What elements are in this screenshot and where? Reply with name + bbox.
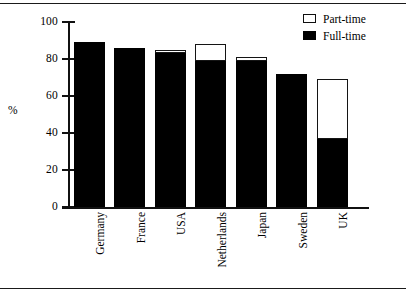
full-time-swatch-icon xyxy=(303,31,316,40)
legend-label-part-time: Part-time xyxy=(323,13,366,25)
y-tick-label-wrap: 20 xyxy=(18,164,58,176)
y-axis-title: % xyxy=(8,104,18,116)
y-tick-label: 0 xyxy=(18,201,58,213)
x-label-usa: USA xyxy=(175,212,187,235)
chart-legend: Part-time Full-time xyxy=(303,11,401,45)
bar-uk xyxy=(317,79,348,207)
bar-france xyxy=(114,48,145,207)
y-tick-100 xyxy=(62,21,75,23)
y-tick-label-wrap: 60 xyxy=(18,90,58,102)
x-label-france: France xyxy=(135,212,147,243)
x-label-uk: UK xyxy=(337,212,349,229)
y-tick-label: 80 xyxy=(18,53,58,65)
x-label-sweden: Sweden xyxy=(297,212,309,248)
legend-item-full-time: Full-time xyxy=(303,28,401,43)
y-tick-label-wrap: 100 xyxy=(18,16,58,28)
bar-netherlands xyxy=(195,44,226,207)
bar-segment-full-time xyxy=(74,42,105,207)
y-axis-line xyxy=(68,22,70,208)
x-label-japan: Japan xyxy=(256,212,268,238)
legend-item-part-time: Part-time xyxy=(303,11,401,26)
bar-segment-full-time xyxy=(195,61,226,207)
legend-label-full-time: Full-time xyxy=(323,30,366,42)
y-tick-label: 100 xyxy=(18,16,58,28)
y-tick-label: 20 xyxy=(18,164,58,176)
bar-segment-part-time xyxy=(195,44,226,61)
y-tick-label-wrap: 80 xyxy=(18,53,58,65)
chart-page: % 020406080100 GermanyFranceUSANetherlan… xyxy=(0,0,406,298)
x-label-netherlands: Netherlands xyxy=(216,212,228,268)
bar-segment-part-time xyxy=(317,79,348,138)
y-tick-label: 60 xyxy=(18,90,58,102)
bar-germany xyxy=(74,42,105,207)
y-tick-label-wrap: 0 xyxy=(18,201,58,213)
bar-chart: % 020406080100 GermanyFranceUSANetherlan… xyxy=(0,0,406,298)
x-axis-line xyxy=(62,207,369,209)
bar-sweden xyxy=(276,74,307,207)
y-tick-label-wrap: 40 xyxy=(18,127,58,139)
bar-segment-full-time xyxy=(155,53,186,207)
x-label-germany: Germany xyxy=(94,212,106,255)
bar-usa xyxy=(155,50,186,207)
bar-japan xyxy=(236,57,267,207)
bar-segment-full-time xyxy=(317,139,348,207)
bar-segment-full-time xyxy=(276,74,307,207)
y-tick-label: 40 xyxy=(18,127,58,139)
part-time-swatch-icon xyxy=(303,14,316,23)
bar-segment-full-time xyxy=(236,61,267,207)
bar-segment-full-time xyxy=(114,48,145,207)
